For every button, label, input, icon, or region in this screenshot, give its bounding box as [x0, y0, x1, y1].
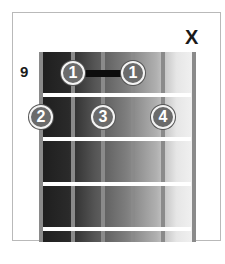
finger-dot: 4 [151, 105, 175, 129]
fret-2 [43, 137, 191, 141]
finger-dot: 3 [91, 105, 115, 129]
string-1 [39, 52, 43, 242]
starting-fret-label: 9 [20, 63, 28, 80]
barre-bar [85, 70, 121, 77]
muted-string-marker: X [185, 26, 198, 49]
finger-dot: 1 [61, 61, 85, 85]
fret-4 [43, 227, 191, 231]
string-6 [192, 52, 196, 242]
finger-dot: 1 [121, 61, 145, 85]
fret-3 [43, 182, 191, 186]
finger-dot: 2 [29, 105, 53, 129]
string-3 [101, 52, 105, 242]
fret-1 [43, 93, 191, 97]
string-5 [161, 52, 165, 242]
